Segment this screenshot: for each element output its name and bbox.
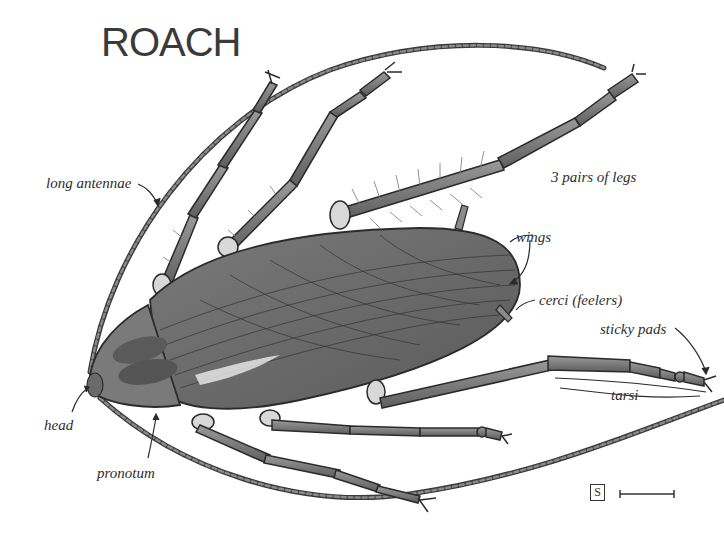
label-pronotum: pronotum bbox=[97, 466, 155, 481]
scale-bar bbox=[620, 490, 674, 498]
label-tarsi: tarsi bbox=[611, 388, 639, 403]
label-sticky-pads: sticky pads bbox=[600, 322, 666, 337]
label-wings: wings bbox=[516, 230, 551, 245]
scale-letter-box: S bbox=[590, 484, 605, 501]
diagram-title: ROACH bbox=[101, 22, 240, 62]
label-long-antennae: long antennae bbox=[46, 176, 131, 191]
label-head: head bbox=[44, 418, 73, 433]
roach-diagram: ROACH long antennae 3 pairs of legs wing… bbox=[0, 0, 724, 549]
label-three-pairs-of-legs: 3 pairs of legs bbox=[551, 170, 636, 185]
label-cerci: cerci (feelers) bbox=[539, 293, 622, 308]
